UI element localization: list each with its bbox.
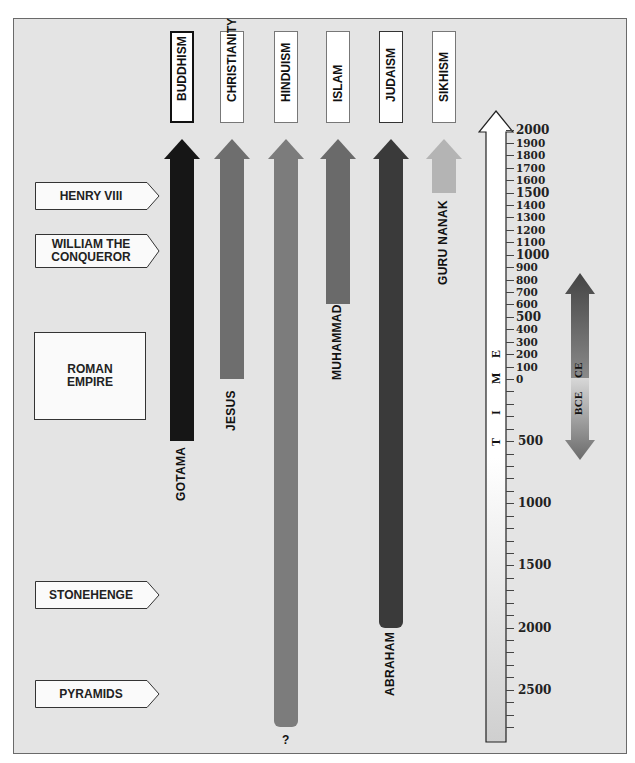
tick-mark [506, 441, 514, 442]
tick-mark [506, 578, 514, 579]
event-flag-pyramids: PYRAMIDS [35, 680, 160, 708]
religion-label-sikhism: SIKHISM [432, 31, 456, 123]
event-label-line2: EMPIRE [67, 376, 113, 389]
religion-name: SIKHISM [437, 52, 451, 102]
tick-mark [506, 491, 514, 492]
tick-mark [506, 168, 514, 169]
tick-mark [506, 516, 514, 517]
religion-name: BUDDHISM [175, 36, 189, 101]
tick-mark [506, 280, 514, 281]
tick-mark [506, 615, 514, 616]
tick-label-ce: 700 [516, 286, 538, 298]
arrow-head-icon [268, 139, 304, 159]
religion-label-christianity: CHRISTIANITY [220, 31, 244, 123]
religion-bar-hinduism [274, 158, 298, 727]
tick-label-ce: 900 [516, 261, 538, 273]
tick-label-ce: 1800 [516, 149, 545, 161]
tick-label-ce: 600 [516, 298, 538, 310]
tick-label-ce: 1600 [516, 174, 545, 186]
religion-label-islam: ISLAM [326, 31, 350, 123]
event-flag-henry-viii: HENRY VIII [35, 182, 160, 210]
event-box-roman-empire: ROMAN EMPIRE [34, 332, 146, 420]
tick-label-bce: 2500 [518, 684, 551, 696]
tick-mark [506, 255, 514, 256]
tick-label-ce: 2000 [516, 124, 549, 136]
event-flag-william-the-conqueror: WILLIAM THE CONQUEROR [35, 234, 160, 268]
tick-mark [506, 553, 514, 554]
tick-mark [506, 193, 514, 194]
religion-label-buddhism: BUDDHISM [170, 31, 194, 123]
tick-mark [506, 217, 514, 218]
arrow-head-icon [214, 139, 250, 159]
tick-mark [506, 454, 514, 455]
founder-label-buddhism: GOTAMA [174, 447, 188, 501]
tick-label-ce: 1700 [516, 162, 545, 174]
tick-label-bce: 2000 [518, 622, 551, 634]
tick-mark [506, 354, 514, 355]
tick-mark [506, 180, 514, 181]
tick-label-ce: 1300 [516, 211, 545, 223]
founder-label-hinduism: ? [282, 733, 290, 747]
tick-mark [506, 205, 514, 206]
tick-label-ce: 0 [516, 373, 523, 385]
tick-mark [506, 590, 514, 591]
tick-mark [506, 727, 514, 728]
arrow-head-icon [164, 139, 200, 159]
event-label: PYRAMIDS [35, 680, 147, 708]
tick-label-ce: 400 [516, 323, 538, 335]
tick-mark [506, 391, 514, 392]
tick-mark [506, 242, 514, 243]
tick-label-ce: 1900 [516, 137, 545, 149]
religion-name: HINDUISM [279, 43, 293, 102]
tick-mark [506, 628, 514, 629]
time-axis-letter: T [489, 438, 504, 446]
tick-mark [506, 478, 514, 479]
tick-label-ce: 200 [516, 348, 538, 360]
event-flag-stonehenge: STONEHENGE [35, 581, 160, 609]
tick-mark [506, 317, 514, 318]
religion-name: ISLAM [331, 65, 345, 102]
religion-name: CHRISTIANITY [225, 18, 239, 102]
religion-bar-sikhism [432, 158, 456, 193]
tick-mark [506, 367, 514, 368]
event-label: STONEHENGE [35, 581, 147, 609]
arrow-head-icon [426, 139, 462, 159]
tick-label-bce: 1000 [518, 497, 551, 509]
tick-mark [506, 503, 514, 504]
tick-label-bce: 500 [518, 435, 543, 447]
tick-label-ce: 1200 [516, 224, 545, 236]
founder-label-islam: MUHAMMAD [330, 305, 344, 381]
tick-mark [506, 379, 514, 380]
tick-mark [506, 565, 514, 566]
tick-mark [506, 528, 514, 529]
tick-mark [506, 130, 514, 131]
tick-mark [506, 677, 514, 678]
tick-mark [506, 541, 514, 542]
tick-label-ce: 300 [516, 336, 538, 348]
time-axis-letter: M [489, 372, 504, 384]
tick-mark [506, 329, 514, 330]
religion-bar-islam [326, 158, 350, 304]
tick-mark [506, 429, 514, 430]
era-label-bce: BCE [572, 391, 584, 415]
founder-label-sikhism: GURU NANAK [436, 200, 450, 285]
tick-mark [506, 292, 514, 293]
tick-label-ce: 500 [516, 311, 541, 323]
tick-mark [506, 690, 514, 691]
tick-label-ce: 1100 [516, 236, 545, 248]
founder-label-christianity: JESUS [224, 390, 238, 431]
tick-mark [506, 665, 514, 666]
tick-mark [506, 267, 514, 268]
tick-label-ce: 1000 [516, 249, 549, 261]
tick-label-ce: 800 [516, 274, 538, 286]
tick-mark [506, 640, 514, 641]
event-label-line2: CONQUEROR [51, 251, 130, 264]
religion-label-judaism: JUDAISM [379, 31, 403, 123]
tick-label-ce: 1400 [516, 199, 545, 211]
tick-label-ce: 1500 [516, 187, 549, 199]
tick-mark [506, 715, 514, 716]
event-label: HENRY VIII [35, 182, 147, 210]
religion-bar-judaism [379, 158, 403, 628]
religion-name: JUDAISM [384, 48, 398, 102]
tick-mark [506, 155, 514, 156]
